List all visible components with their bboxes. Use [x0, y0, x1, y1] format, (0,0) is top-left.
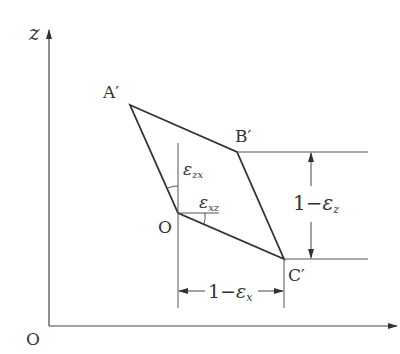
angle-label-xz: εxz — [199, 192, 220, 213]
angle-label-zx: εzx — [183, 159, 203, 180]
strain-diagram: z O 1−εz 1−εx A′ B′ C′ O εzx εxz — [0, 0, 400, 354]
angle-arc-zx — [168, 186, 178, 188]
angle-arc-xz — [204, 213, 205, 224]
deformed-element — [130, 105, 284, 259]
z-axis-label: z — [28, 21, 40, 45]
horizontal-dimension-label: 1−εx — [208, 280, 253, 304]
point-o-label: O — [158, 217, 172, 237]
vertical-dimension-label: 1−εz — [293, 191, 339, 216]
point-a-label: A′ — [102, 82, 119, 102]
point-c-label: C′ — [288, 265, 305, 285]
origin-label: O — [26, 329, 40, 349]
point-b-label: B′ — [235, 126, 251, 146]
vertical-dimension: 1−εz — [293, 153, 339, 258]
horizontal-dimension: 1−εx — [179, 280, 283, 304]
